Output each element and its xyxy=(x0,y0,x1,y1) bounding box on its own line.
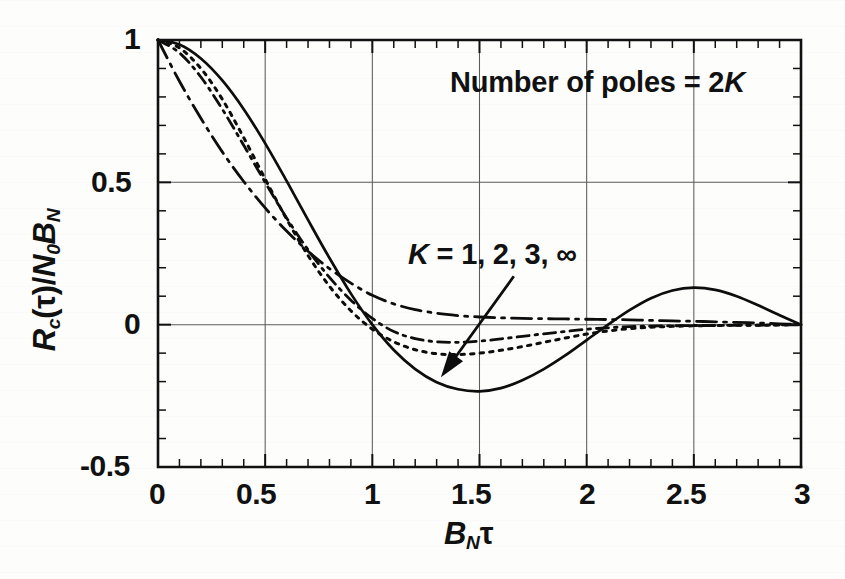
ytick-label-0-5: 0.5 xyxy=(91,165,131,199)
xtick-label-3: 3 xyxy=(794,477,810,511)
xtick-label-1-5: 1.5 xyxy=(451,477,491,511)
poles-annotation-text: Number of poles = 2 xyxy=(450,66,724,98)
x-axis-title: BNτ xyxy=(444,516,493,554)
curve-family-label: K = 1, 2, 3, ∞ xyxy=(408,238,577,271)
annotation-arrow xyxy=(441,276,514,377)
figure-page: 1 0.5 0 -0.5 0 0.5 1 1.5 2 2.5 3 BNτ Rc(… xyxy=(0,0,845,579)
x-axis-title-tau: τ xyxy=(480,516,494,551)
curve-family-label-rest: = 1, 2, 3, ∞ xyxy=(429,238,577,270)
y-axis-title-tau: (τ)/ xyxy=(27,277,62,319)
y-axis-title-sub-n: N xyxy=(43,209,64,223)
xtick-label-1: 1 xyxy=(364,477,380,511)
ytick-label-1: 1 xyxy=(124,22,140,56)
xtick-label-2: 2 xyxy=(579,477,595,511)
y-axis-title-sub-c: c xyxy=(43,319,64,329)
xtick-label-0: 0 xyxy=(149,477,165,511)
x-axis-title-b: B xyxy=(444,516,466,551)
y-axis-title: Rc(τ)/N0BN xyxy=(27,209,65,352)
curve-family-label-k: K xyxy=(408,238,429,270)
x-axis-title-sub: N xyxy=(466,532,480,553)
poles-annotation-k: K xyxy=(724,66,745,98)
xtick-label-0-5: 0.5 xyxy=(236,477,276,511)
y-axis-title-b: B xyxy=(27,222,62,244)
ytick-label-neg0-5: -0.5 xyxy=(80,449,130,483)
y-axis-title-r: R xyxy=(27,329,62,351)
y-axis-title-sub-0: 0 xyxy=(43,244,64,254)
ytick-label-0: 0 xyxy=(124,307,140,341)
xtick-label-2-5: 2.5 xyxy=(666,477,706,511)
y-axis-title-n: N xyxy=(27,255,62,277)
y-axis-title-wrapper: Rc(τ)/N0BN xyxy=(18,150,74,410)
poles-annotation: Number of poles = 2K xyxy=(450,66,745,99)
